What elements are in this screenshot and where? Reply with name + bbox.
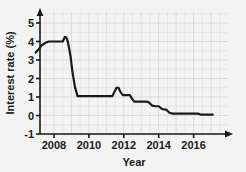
y-axis-title: Interest rate (%) xyxy=(4,31,16,114)
x-tick-label: 2010 xyxy=(77,139,101,151)
y-tick-label: 2 xyxy=(28,73,34,85)
interest-rate-chart: -1012345 20082010201220142016 Interest r… xyxy=(0,0,246,172)
y-tick-label: 1 xyxy=(28,91,34,103)
x-tick-label: 2008 xyxy=(42,139,66,151)
x-tick-label: 2016 xyxy=(181,139,205,151)
x-tick-label: 2014 xyxy=(146,139,171,151)
y-tick-label: 3 xyxy=(28,54,34,66)
y-tick-label: 4 xyxy=(28,36,35,48)
x-axis-title: Year xyxy=(122,156,146,168)
chart-canvas: -1012345 20082010201220142016 Interest r… xyxy=(0,0,246,172)
y-tick-label: 5 xyxy=(28,17,34,29)
y-tick-label: -1 xyxy=(24,128,34,140)
x-tick-label: 2012 xyxy=(112,139,136,151)
y-tick-label: 0 xyxy=(28,110,34,122)
